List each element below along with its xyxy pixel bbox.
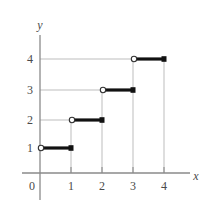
open-circle-marker-3 — [100, 87, 105, 92]
y-tick-label-3: 3 — [27, 83, 33, 97]
step-function-chart: 1 2 3 4 0 1 2 3 4 y x — [0, 0, 208, 224]
y-tick-label-1: 1 — [27, 141, 33, 155]
open-circle-marker-2 — [69, 117, 74, 122]
filled-square-marker-1 — [69, 145, 74, 151]
x-tick-label-2: 2 — [99, 179, 105, 193]
filled-square-marker-4 — [162, 56, 167, 62]
x-tick-label-0: 0 — [29, 179, 35, 193]
open-circle-marker-4 — [131, 56, 136, 61]
y-axis-label: y — [36, 18, 43, 32]
x-tick-label-4: 4 — [161, 179, 167, 193]
filled-square-marker-3 — [131, 87, 136, 93]
y-tick-label-4: 4 — [27, 52, 33, 66]
open-circle-marker-1 — [38, 145, 43, 150]
chart-canvas: 1 2 3 4 0 1 2 3 4 y x — [0, 0, 208, 224]
x-tick-label-3: 3 — [130, 179, 136, 193]
y-tick-label-2: 2 — [27, 113, 33, 127]
filled-square-marker-2 — [100, 117, 105, 123]
x-axis-label: x — [192, 169, 199, 183]
x-tick-label-1: 1 — [68, 179, 74, 193]
